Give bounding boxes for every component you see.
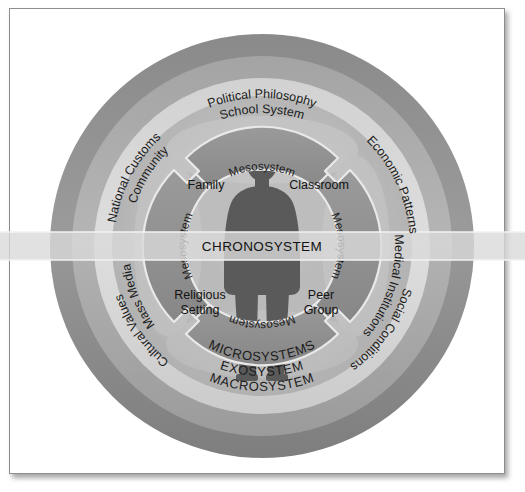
microsystem-label-peer-group-line2: Group [304, 303, 339, 317]
screenshot-root: Mesosystem Mesosystem Mesosystem Mesosys… [0, 0, 525, 492]
microsystem-label-peer-group-line1: Peer [308, 288, 334, 302]
microsystem-label-religious-setting-line2: Setting [181, 303, 220, 317]
microsystem-label-family: Family [188, 178, 226, 192]
microsystem-label-religious-setting-line1: Religious [174, 288, 225, 302]
microsystem-label-classroom: Classroom [289, 178, 349, 192]
ecological-systems-diagram: Mesosystem Mesosystem Mesosystem Mesosys… [0, 0, 525, 492]
chronosystem-label: CHRONOSYSTEM [202, 239, 322, 254]
